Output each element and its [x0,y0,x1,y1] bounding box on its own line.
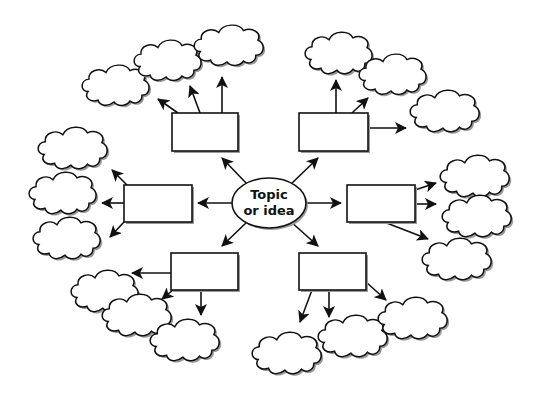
arrow-l-to-cloud-3 [110,222,124,237]
arrow-r-to-cloud-1 [415,183,436,190]
cloud-left-1 [38,127,109,171]
arrow-br-to-cloud-3 [366,282,386,300]
arrow-tr-to-cloud-2 [352,98,368,113]
cloud-right-3 [422,238,493,282]
cloud-top-left-3 [194,25,265,67]
cluster-diagram: Topic or idea [0,0,540,397]
cloud-top-right-2 [359,54,428,96]
arrow-r-to-cloud-3 [384,222,428,239]
arrow-center-to-bottom-left [222,221,248,246]
box-top-left [172,113,240,153]
arrow-br-to-cloud-1 [300,290,312,322]
cloud-right-1 [440,155,511,199]
cloud-top-right-3 [410,90,481,134]
arrow-center-to-bottom-right [290,221,318,246]
cloud-left-2 [29,172,98,216]
arrow-l-to-cloud-1 [112,170,128,186]
arrow-center-to-top-right [290,158,318,185]
cloud-right-2 [442,195,513,239]
box-top-right [299,113,370,153]
arrow-tl-to-cloud-2 [190,86,200,113]
cloud-bottom-left-3 [150,319,221,363]
cloud-top-left-2 [134,40,203,82]
center-topic-ellipse [232,178,308,230]
cloud-bottom-right-3 [378,297,449,341]
diagram-canvas [0,0,540,397]
box-right [347,185,417,224]
box-bottom-left [171,253,240,292]
cloud-bottom-right-1 [252,332,323,376]
box-bottom-right [299,253,368,292]
cloud-left-3 [33,217,102,261]
arrow-bl-to-cloud-2 [162,290,173,299]
arrow-center-to-top-left [222,158,248,185]
arrow-tl-to-cloud-1 [158,99,178,113]
box-left [124,185,194,224]
